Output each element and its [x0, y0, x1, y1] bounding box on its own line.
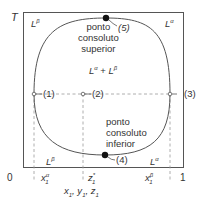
tick-z1-star: z*1: [88, 172, 95, 185]
region-top-left: Lβ: [31, 18, 40, 29]
region-bottom-left: Lβ: [46, 156, 55, 167]
lower-consolute-label: ponto consoluto inferior: [106, 116, 147, 149]
point-1-label: (1): [43, 89, 55, 99]
region-bottom-right: Lα: [150, 156, 159, 167]
region-middle: Lα + Lβ: [89, 65, 117, 76]
lower-consolute-point: [102, 152, 108, 158]
tick-x1-alpha: xα1: [41, 172, 49, 185]
point-4-label: (4): [116, 155, 128, 165]
point-2-marker: [81, 92, 85, 96]
tick-x1-beta: xβ1: [145, 172, 153, 185]
point-2-label: (2): [92, 89, 104, 99]
x-axis-end: 1: [180, 173, 186, 183]
point-3-marker: [168, 92, 172, 96]
point-3-label: (3): [184, 89, 196, 99]
x-axis-label: x1, y1, z1: [64, 186, 99, 198]
y-axis-label: T: [11, 12, 18, 23]
point-5-label: (5): [118, 23, 130, 33]
x-axis-origin: 0: [7, 173, 13, 183]
region-top-right: Lα: [165, 18, 174, 29]
point-1-marker: [32, 92, 36, 96]
upper-consolute-label: ponto consoluto superior: [78, 21, 119, 54]
leader-4: [108, 157, 115, 160]
